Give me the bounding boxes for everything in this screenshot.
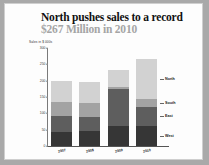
legend-leader-line (160, 116, 164, 117)
bar-segment-south[interactable] (79, 103, 100, 117)
bar-segment-south[interactable] (51, 102, 72, 116)
bar-segment-east[interactable] (108, 89, 129, 127)
bar-2009[interactable]: 2009 (108, 70, 129, 146)
bar-segment-east[interactable] (51, 116, 72, 132)
chart-title: North pushes sales to a record $267 Mill… (41, 12, 201, 35)
y-axis-label: Sales in $ 000s (29, 40, 52, 44)
bar-segment-north[interactable] (79, 82, 100, 103)
y-axis-tick-mark (46, 48, 48, 49)
legend-item-north[interactable]: North (165, 77, 175, 81)
bar-segment-south[interactable] (136, 99, 157, 107)
bar-2008[interactable]: 2008 (79, 82, 100, 146)
x-axis-tick-label: 2007 (51, 147, 72, 155)
bar-2010[interactable]: 2010 (136, 59, 157, 146)
legend-leader-line (160, 136, 164, 137)
bar-segment-north[interactable] (108, 70, 129, 87)
legend-leader-line (160, 103, 164, 104)
x-axis-tick-label: 2008 (79, 147, 100, 155)
title-secondary: $267 Million in 2010 (41, 23, 137, 35)
bar-segment-north[interactable] (136, 59, 157, 99)
bar-segment-east[interactable] (136, 107, 157, 126)
bar-segment-west[interactable] (136, 126, 157, 146)
y-axis-tick-mark (46, 97, 48, 98)
bar-segment-east[interactable] (79, 117, 100, 132)
legend-item-west[interactable]: West (165, 134, 174, 138)
bar-segment-west[interactable] (51, 132, 72, 146)
x-axis-tick-label: 2010 (136, 147, 157, 155)
legend-leader-line (160, 79, 164, 80)
legend-item-south[interactable]: South (165, 101, 175, 105)
legend-label: South (165, 101, 175, 105)
legend-label: North (165, 77, 175, 81)
bar-2007[interactable]: 2007 (51, 81, 72, 146)
legend-item-east[interactable]: East (165, 114, 173, 118)
y-axis-tick-mark (46, 80, 48, 81)
title-primary: North pushes sales to a record (41, 11, 183, 23)
chart-card: North pushes sales to a record $267 Mill… (4, 3, 203, 160)
bar-segment-west[interactable] (79, 131, 100, 146)
y-axis-tick-mark (46, 113, 48, 114)
y-axis-tick-mark (46, 146, 48, 147)
y-axis-tick-mark (46, 129, 48, 130)
plot-area: 0501001502002503002007200820092010 (48, 48, 162, 146)
bar-segment-north[interactable] (51, 81, 72, 103)
legend-label: East (165, 114, 173, 118)
y-axis-tick-mark (46, 64, 48, 65)
x-axis-line (47, 146, 169, 147)
x-axis-tick-label: 2009 (108, 147, 129, 155)
legend-label: West (165, 134, 174, 138)
bar-segment-west[interactable] (108, 126, 129, 146)
